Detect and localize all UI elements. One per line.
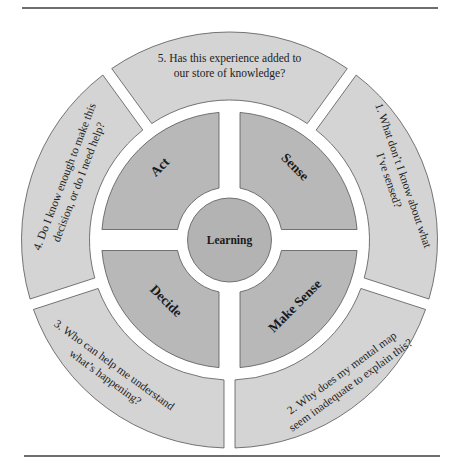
outer-label-5-line-2: our store of knowledge? — [174, 67, 285, 80]
hub-label: Learning — [207, 234, 253, 247]
outer-label-5-line-1: 5. Has this experience added to — [158, 52, 302, 65]
learning-cycle-diagram: Learning Act Sense Make Sense Decide 5. … — [0, 0, 461, 471]
